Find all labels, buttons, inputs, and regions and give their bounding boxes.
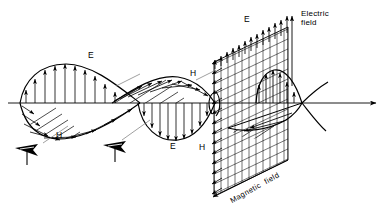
electric-field-label: Electric field [301, 9, 329, 28]
e-lobe-2 [138, 103, 215, 141]
e-label-plane: E [244, 14, 250, 24]
h-label-lobe-2: H [190, 68, 196, 78]
plane-top-e-arrows [215, 16, 287, 69]
wave-tail [302, 82, 328, 131]
e-label-lobe-1: E [88, 50, 94, 60]
h-lobe-1 [6, 103, 140, 176]
h-label-plane: H [199, 142, 205, 152]
field-vector-marker-left [15, 144, 38, 165]
field-vector-marker-right [103, 141, 126, 162]
em-wave-canvas [0, 0, 382, 207]
h-lobe-2 [104, 68, 215, 136]
e-label-lobe-2: E [170, 141, 176, 151]
h-label-lobe-1: H [56, 130, 62, 140]
em-wave-figure: Electric field Magnetic field E H H E H … [0, 0, 382, 207]
plane-left-h-arrows [212, 58, 222, 194]
